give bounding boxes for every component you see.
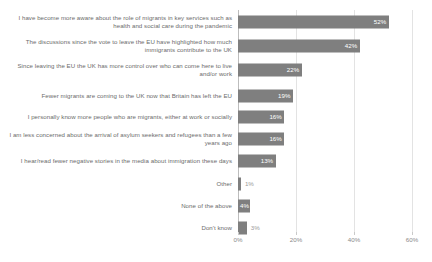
bar-row: None of the above4% [0,197,432,215]
category-label: None of the above [6,202,238,210]
category-label: Fewer migrants are coming to the UK now … [6,92,238,100]
bar-value-label: 16% [269,136,281,142]
bar-value-label: 22% [287,67,299,73]
category-label: Don't know [6,224,238,232]
x-tick-label: 40% [348,236,360,243]
category-label: I hear/read fewer negative stories in th… [6,157,238,165]
bar [238,178,241,191]
x-tick [412,232,413,235]
bar-row: I hear/read fewer negative stories in th… [0,150,432,172]
bar-track: 22% [238,58,432,82]
bar-value-label: 42% [345,43,357,49]
bar-row: I am less concerned about the arrival of… [0,128,432,150]
bar-row: Fewer migrants are coming to the UK now … [0,86,432,106]
bar [238,40,360,53]
bar-track: 19% [238,86,432,106]
bar-row: I personally know more people who are mi… [0,106,432,128]
x-tick [354,232,355,235]
x-tick [296,232,297,235]
bar-row: Since leaving the EU the UK has more con… [0,58,432,82]
bar-rows: I have become more aware about the role … [0,10,432,237]
bar-track: 52% [238,10,432,34]
category-label: I have become more aware about the role … [6,14,238,30]
bar-track: 42% [238,34,432,58]
bar-row: I have become more aware about the role … [0,10,432,34]
bar [238,16,389,29]
category-label: The discussions since the vote to leave … [6,38,238,54]
bar-value-label: 19% [278,93,290,99]
bar-row: Other1% [0,175,432,193]
category-label: Other [6,180,238,188]
x-axis: 0%20%40%60% [238,232,412,252]
bar-track: 16% [238,128,432,150]
x-tick-label: 20% [290,236,302,243]
bar-track: 1% [238,175,432,193]
bar-track: 4% [238,197,432,215]
bar-value-label: 16% [269,114,281,120]
bar-value-label: 52% [374,19,386,25]
category-label: Since leaving the EU the UK has more con… [6,62,238,78]
x-tick [238,232,239,235]
category-label: I personally know more people who are mi… [6,113,238,121]
bar-track: 16% [238,106,432,128]
x-tick-label: 0% [234,236,243,243]
category-label: I am less concerned about the arrival of… [6,131,238,147]
bar-value-label: 13% [261,158,273,164]
bar-value-label: 3% [251,225,260,231]
x-tick-label: 60% [406,236,418,243]
bar-value-label: 1% [245,181,254,187]
horizontal-bar-chart: I have become more aware about the role … [0,0,432,262]
bar-row: The discussions since the vote to leave … [0,34,432,58]
bar-value-label: 4% [240,203,249,209]
bar-track: 13% [238,150,432,172]
